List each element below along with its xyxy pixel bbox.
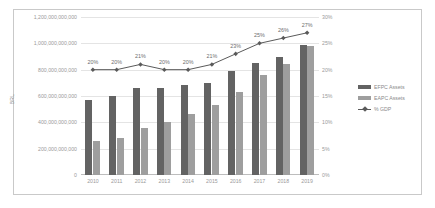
x-tick-label: 2017 xyxy=(248,178,272,184)
line-data-point[interactable] xyxy=(186,67,191,72)
line-data-point[interactable] xyxy=(138,62,143,67)
line-data-point[interactable] xyxy=(281,36,286,41)
x-tick-label: 2011 xyxy=(105,178,129,184)
x-tick-label: 2014 xyxy=(176,178,200,184)
x-tick-label: 2015 xyxy=(200,178,224,184)
line-data-point[interactable] xyxy=(233,52,238,57)
y2-tick-label: 15% xyxy=(322,93,352,99)
y-tick-label: 800,000,000,000 xyxy=(11,67,77,73)
line-data-point[interactable] xyxy=(162,67,167,72)
y2-tick-label: 5% xyxy=(322,146,352,152)
legend-item-pct-gdp[interactable]: % GDP xyxy=(358,104,422,114)
line-point-label: 20% xyxy=(177,59,199,65)
legend-label: % GDP xyxy=(374,106,391,112)
line-point-label: 21% xyxy=(130,53,152,59)
legend-label: EFPC Assets xyxy=(374,84,405,90)
x-tick-label: 2012 xyxy=(129,178,153,184)
line-point-label: 23% xyxy=(225,43,247,49)
x-tick-label: 2010 xyxy=(81,178,105,184)
y2-tick-label: 25% xyxy=(322,40,352,46)
y2-tick-label: 0% xyxy=(322,172,352,178)
legend-swatch-icon xyxy=(358,96,371,100)
line-point-label: 27% xyxy=(296,22,318,28)
x-tick-label: 2019 xyxy=(295,178,319,184)
y2-tick-label: 30% xyxy=(322,14,352,20)
y-tick-label: 1,200,000,000,000 xyxy=(11,14,77,20)
line-point-label: 25% xyxy=(249,32,271,38)
line-data-point[interactable] xyxy=(91,67,96,72)
y-axis-right-ticks: 30% 25% 20% 15% 10% 5% 0% xyxy=(322,17,352,175)
line-point-label: 20% xyxy=(82,59,104,65)
legend-label: EAPC Assets xyxy=(374,95,405,101)
x-axis-ticks: 2010201120122013201420152016201720182019 xyxy=(81,178,319,188)
y-tick-label: 400,000,000,000 xyxy=(11,119,77,125)
line-data-point[interactable] xyxy=(114,67,119,72)
y2-tick-label: 20% xyxy=(322,67,352,73)
legend-swatch-icon xyxy=(358,85,371,89)
x-tick-label: 2016 xyxy=(224,178,248,184)
line-data-point[interactable] xyxy=(257,41,262,46)
y-tick-label: 200,000,000,000 xyxy=(11,146,77,152)
line-point-label: 20% xyxy=(106,59,128,65)
y-tick-label: 1,000,000,000,000 xyxy=(11,40,77,46)
x-tick-label: 2013 xyxy=(152,178,176,184)
legend-item-eapc-assets[interactable]: EAPC Assets xyxy=(358,93,422,103)
line-point-label: 26% xyxy=(272,27,294,33)
y2-tick-label: 10% xyxy=(322,119,352,125)
line-data-point[interactable] xyxy=(210,62,215,67)
chart-container: BRL 1,200,000,000,000 1,000,000,000,000 … xyxy=(0,0,435,208)
legend-line-marker-icon xyxy=(358,106,371,112)
line-series-gdp xyxy=(81,17,319,175)
chart-legend: EFPC Assets EAPC Assets % GDP xyxy=(358,82,422,115)
y-tick-label: 600,000,000,000 xyxy=(11,93,77,99)
line-point-label: 21% xyxy=(201,53,223,59)
y-tick-label: 0 xyxy=(11,172,77,178)
line-point-label: 20% xyxy=(153,59,175,65)
y-axis-left-ticks: 1,200,000,000,000 1,000,000,000,000 800,… xyxy=(11,17,77,175)
line-data-point[interactable] xyxy=(305,31,310,36)
legend-item-efpc-assets[interactable]: EFPC Assets xyxy=(358,82,422,92)
x-tick-label: 2018 xyxy=(271,178,295,184)
